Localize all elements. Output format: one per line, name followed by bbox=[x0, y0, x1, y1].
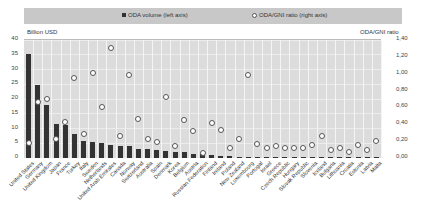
point-oda-gni-ratio bbox=[135, 116, 141, 122]
right-axis-tick: 1,00 bbox=[396, 69, 408, 75]
bar-oda-volume bbox=[374, 157, 379, 158]
right-axis-tick: 0,00 bbox=[396, 153, 408, 159]
bar-oda-volume bbox=[90, 142, 95, 158]
legend-circle-swatch bbox=[252, 13, 257, 18]
point-oda-gni-ratio bbox=[90, 70, 96, 76]
gridline-vertical bbox=[308, 40, 309, 158]
chart-legend: ODA volume (left axis) ODA/GNI ratio (ri… bbox=[24, 8, 402, 24]
legend-bar-swatch bbox=[122, 13, 126, 17]
point-oda-gni-ratio bbox=[190, 128, 196, 134]
point-oda-gni-ratio bbox=[236, 136, 242, 142]
left-axis-title: Billion USD bbox=[27, 29, 57, 35]
right-axis-tick: 0,20 bbox=[396, 136, 408, 142]
point-oda-gni-ratio bbox=[53, 136, 59, 142]
gridline-vertical bbox=[262, 40, 263, 158]
legend-label: ODA/GNI ratio (right axis) bbox=[259, 12, 327, 18]
point-oda-gni-ratio bbox=[245, 72, 251, 78]
bar-oda-volume bbox=[310, 157, 315, 158]
point-oda-gni-ratio bbox=[108, 45, 114, 51]
point-oda-gni-ratio bbox=[71, 75, 77, 81]
gridline-vertical bbox=[116, 40, 117, 158]
point-oda-gni-ratio bbox=[81, 131, 87, 137]
point-oda-gni-ratio bbox=[181, 117, 187, 123]
bar-oda-volume bbox=[99, 143, 104, 158]
point-oda-gni-ratio bbox=[126, 72, 132, 78]
gridline-vertical bbox=[134, 40, 135, 158]
gridline-vertical bbox=[381, 40, 382, 158]
gridline-vertical bbox=[33, 40, 34, 158]
gridline-vertical bbox=[216, 40, 217, 158]
gridline-horizontal bbox=[24, 69, 381, 70]
right-axis-tick: 1,20 bbox=[396, 52, 408, 58]
point-oda-gni-ratio bbox=[309, 142, 315, 148]
bar-oda-volume bbox=[63, 125, 68, 158]
gridline-vertical bbox=[70, 40, 71, 158]
gridline-vertical bbox=[244, 40, 245, 158]
gridline-vertical bbox=[61, 40, 62, 158]
left-axis-tick: 10 bbox=[4, 124, 18, 130]
gridline-vertical bbox=[97, 40, 98, 158]
gridline-vertical bbox=[79, 40, 80, 158]
bar-oda-volume bbox=[163, 151, 168, 158]
left-axis-tick: 20 bbox=[4, 94, 18, 100]
bar-oda-volume bbox=[264, 157, 269, 158]
gridline-horizontal bbox=[24, 40, 381, 41]
point-oda-gni-ratio bbox=[364, 147, 370, 153]
point-oda-gni-ratio bbox=[328, 147, 334, 153]
bar-oda-volume bbox=[346, 157, 351, 158]
gridline-vertical bbox=[335, 40, 336, 158]
point-oda-gni-ratio bbox=[154, 139, 160, 145]
gridline-horizontal bbox=[24, 54, 381, 55]
right-axis-tick: 1,40 bbox=[396, 35, 408, 41]
gridline-vertical bbox=[125, 40, 126, 158]
gridline-horizontal bbox=[24, 84, 381, 85]
bar-oda-volume bbox=[108, 145, 113, 158]
gridline-vertical bbox=[88, 40, 89, 158]
gridline-vertical bbox=[189, 40, 190, 158]
point-oda-gni-ratio bbox=[346, 149, 352, 155]
point-oda-gni-ratio bbox=[200, 150, 206, 156]
bar-oda-volume bbox=[218, 156, 223, 158]
bar-oda-volume bbox=[127, 146, 132, 158]
gridline-vertical bbox=[280, 40, 281, 158]
bar-oda-volume bbox=[154, 150, 159, 158]
bar-oda-volume bbox=[273, 157, 278, 158]
left-axis-tick: 40 bbox=[4, 35, 18, 41]
bar-oda-volume bbox=[182, 152, 187, 158]
bar-oda-volume bbox=[145, 149, 150, 158]
legend-item-oda-gni-ratio: ODA/GNI ratio (right axis) bbox=[252, 12, 327, 18]
bar-oda-volume bbox=[337, 157, 342, 158]
point-oda-gni-ratio bbox=[227, 145, 233, 151]
bar-oda-volume bbox=[237, 157, 242, 158]
right-axis-tick: 0,40 bbox=[396, 119, 408, 125]
bar-oda-volume bbox=[356, 157, 361, 158]
point-oda-gni-ratio bbox=[209, 120, 215, 126]
bar-oda-volume bbox=[255, 157, 260, 158]
point-oda-gni-ratio bbox=[26, 140, 32, 146]
point-oda-gni-ratio bbox=[282, 145, 288, 151]
bar-oda-volume bbox=[136, 149, 141, 158]
bar-oda-volume bbox=[44, 105, 49, 158]
right-axis-tick: 0,60 bbox=[396, 102, 408, 108]
bar-oda-volume bbox=[118, 146, 123, 158]
gridline-vertical bbox=[354, 40, 355, 158]
point-oda-gni-ratio bbox=[145, 136, 151, 142]
left-axis-tick: 25 bbox=[4, 79, 18, 85]
gridline-horizontal bbox=[24, 113, 381, 114]
point-oda-gni-ratio bbox=[291, 145, 297, 151]
bar-oda-volume bbox=[301, 157, 306, 158]
left-axis-tick: 30 bbox=[4, 65, 18, 71]
bar-oda-volume bbox=[173, 152, 178, 158]
point-oda-gni-ratio bbox=[319, 133, 325, 139]
point-oda-gni-ratio bbox=[273, 143, 279, 149]
gridline-vertical bbox=[152, 40, 153, 158]
gridline-vertical bbox=[253, 40, 254, 158]
bar-oda-volume bbox=[227, 156, 232, 158]
gridline-vertical bbox=[161, 40, 162, 158]
bar-oda-volume bbox=[81, 141, 86, 158]
gridline-vertical bbox=[289, 40, 290, 158]
bar-oda-volume bbox=[328, 157, 333, 158]
left-axis-tick: 35 bbox=[4, 50, 18, 56]
gridline-vertical bbox=[106, 40, 107, 158]
point-oda-gni-ratio bbox=[300, 145, 306, 151]
